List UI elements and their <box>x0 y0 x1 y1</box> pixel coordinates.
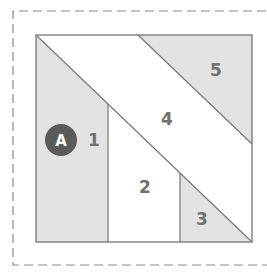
region-label-5: 5 <box>210 60 222 80</box>
section-badge-label: A <box>55 132 67 150</box>
region-label-4: 4 <box>161 109 173 129</box>
quilt-block-diagram: A 1 2 3 4 5 <box>0 0 267 274</box>
region-label-1: 1 <box>88 130 100 150</box>
region-label-3: 3 <box>196 209 208 229</box>
region-label-2: 2 <box>139 177 151 197</box>
